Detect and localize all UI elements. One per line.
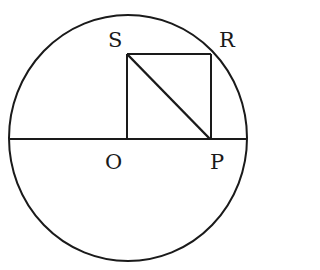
label-p: P [210, 152, 224, 173]
label-s: S [108, 30, 122, 51]
diagonal-sp [127, 54, 210, 139]
label-o: O [105, 152, 122, 173]
label-r: R [219, 30, 235, 51]
